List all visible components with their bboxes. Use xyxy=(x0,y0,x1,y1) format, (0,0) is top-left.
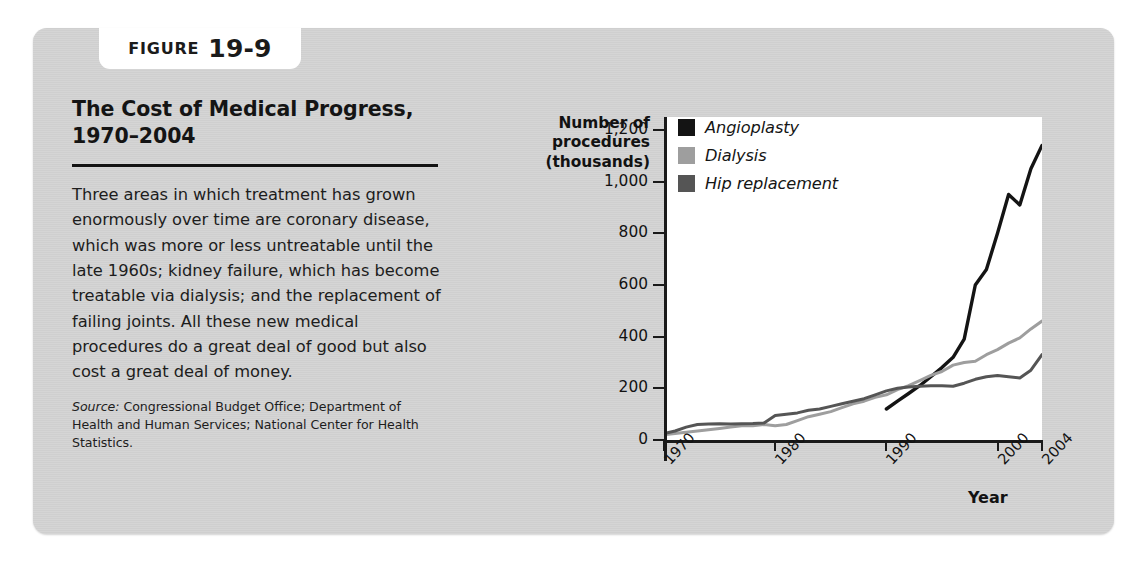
y-axis-line xyxy=(664,117,667,461)
series-line-angioplasty xyxy=(886,145,1042,409)
y-tick-label-1200: 1,200 xyxy=(498,120,648,138)
y-tick-1000 xyxy=(653,181,666,183)
series-line-hip-replacement xyxy=(664,355,1042,434)
x-tick-2000 xyxy=(997,440,999,451)
figure-body-text: Three areas in which treatment has grown… xyxy=(72,182,444,385)
legend-swatch-hip-replacement xyxy=(678,175,695,192)
y-tick-label-200: 200 xyxy=(498,378,648,396)
figure-number-label: 19-9 xyxy=(208,34,271,63)
figure-word-label: FIGURE xyxy=(128,39,199,58)
legend-swatch-angioplasty xyxy=(678,119,695,136)
y-tick-label-1000: 1,000 xyxy=(498,172,648,190)
y-tick-label-400: 400 xyxy=(498,327,648,345)
legend-label-hip-replacement: Hip replacement xyxy=(705,174,838,193)
y-tick-1200 xyxy=(653,129,666,131)
figure-page: FIGURE 19-9 The Cost of Medical Progress… xyxy=(0,0,1147,573)
legend-item-hip-replacement: Hip replacement xyxy=(678,174,838,193)
source-text: Congressional Budget Office; Department … xyxy=(72,399,419,450)
legend-label-angioplasty: Angioplasty xyxy=(705,118,799,137)
y-tick-label-0: 0 xyxy=(498,430,648,448)
y-tick-200 xyxy=(653,387,666,389)
y-tick-800 xyxy=(653,232,666,234)
legend-label-dialysis: Dialysis xyxy=(705,146,767,165)
page-title: The Cost of Medical Progress, 1970–2004 xyxy=(72,96,444,150)
y-axis-title-line3: (thousands) xyxy=(470,153,650,172)
legend-item-angioplasty: Angioplasty xyxy=(678,118,838,137)
y-tick-label-600: 600 xyxy=(498,275,648,293)
legend-item-dialysis: Dialysis xyxy=(678,146,838,165)
chart-area: Number of procedures (thousands) 0200400… xyxy=(470,96,1070,516)
figure-number-tab: FIGURE 19-9 xyxy=(99,28,301,69)
x-axis-line xyxy=(664,440,1042,443)
source-label: Source: xyxy=(72,399,119,414)
chart-legend: Angioplasty Dialysis Hip replacement xyxy=(678,118,838,202)
figure-text-column: The Cost of Medical Progress, 1970–2004 … xyxy=(72,96,444,452)
title-divider xyxy=(72,164,438,167)
legend-swatch-dialysis xyxy=(678,147,695,164)
y-tick-400 xyxy=(653,336,666,338)
figure-source: Source: Congressional Budget Office; Dep… xyxy=(72,398,444,452)
y-tick-label-800: 800 xyxy=(498,223,648,241)
y-tick-600 xyxy=(653,284,666,286)
x-axis-title: Year xyxy=(968,488,1008,507)
